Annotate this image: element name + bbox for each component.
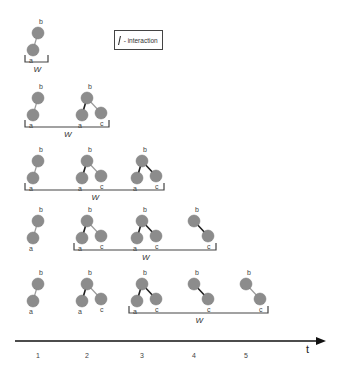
node-b [32, 278, 44, 290]
window-label: W [142, 253, 151, 262]
node-a [76, 232, 88, 244]
axis-tick-label: 2 [85, 352, 89, 359]
node-a [27, 172, 39, 184]
node-label-b: b [88, 269, 92, 276]
node-label-b: b [39, 269, 43, 276]
window-label: W [64, 130, 73, 139]
node-b [81, 92, 93, 104]
node-label-a: a [133, 308, 137, 315]
node-label-c: c [100, 120, 104, 127]
node-c [95, 230, 107, 242]
node-label-b: b [88, 83, 92, 90]
node-label-c: c [207, 306, 211, 313]
node-label-a: a [78, 308, 82, 315]
node-a [76, 295, 88, 307]
axis-tick-label: 3 [140, 352, 144, 359]
node-label-b: b [88, 206, 92, 213]
node-label-c: c [100, 243, 104, 250]
node-label-c: c [155, 183, 159, 190]
node-label-a: a [78, 122, 82, 129]
node-label-c: c [100, 183, 104, 190]
node-b [136, 215, 148, 227]
node-b [32, 27, 44, 39]
node-label-b: b [143, 206, 147, 213]
axis-tick-label: 1 [36, 352, 40, 359]
node-b [32, 215, 44, 227]
node-label-c: c [207, 243, 211, 250]
node-label-a: a [29, 185, 33, 192]
node-b [81, 155, 93, 167]
node-c [95, 170, 107, 182]
node-label-a: a [29, 57, 33, 64]
node-label-c: c [155, 243, 159, 250]
window-label: W [92, 193, 101, 202]
axis-tick-label: 5 [244, 352, 248, 359]
node-c [202, 293, 214, 305]
node-b [188, 278, 200, 290]
node-label-b: b [39, 146, 43, 153]
node-a [27, 232, 39, 244]
window-bracket [74, 243, 216, 250]
node-a [76, 172, 88, 184]
node-a [27, 295, 39, 307]
node-a [131, 232, 143, 244]
node-b [81, 215, 93, 227]
diagram-canvas: abWababcWababcabcWababcabcbcWababcabcbcb… [0, 0, 339, 369]
node-a [131, 295, 143, 307]
node-label-b: b [39, 18, 43, 25]
node-label-b: b [195, 269, 199, 276]
node-label-a: a [78, 245, 82, 252]
node-label-b: b [143, 269, 147, 276]
node-label-c: c [259, 306, 263, 313]
node-b [240, 278, 252, 290]
node-label-b: b [39, 206, 43, 213]
node-label-a: a [133, 185, 137, 192]
node-label-a: a [29, 245, 33, 252]
node-label-c: c [100, 306, 104, 313]
window-bracket [129, 306, 268, 313]
node-label-b: b [88, 146, 92, 153]
node-b [32, 155, 44, 167]
node-c [95, 107, 107, 119]
node-c [202, 230, 214, 242]
node-b [188, 215, 200, 227]
node-label-a: a [29, 308, 33, 315]
node-b [32, 92, 44, 104]
axis-arrow-icon [316, 337, 326, 345]
node-a [131, 172, 143, 184]
node-label-a: a [78, 185, 82, 192]
node-label-b: b [39, 83, 43, 90]
node-c [150, 293, 162, 305]
window-label: W [196, 316, 205, 325]
node-label-b: b [247, 269, 251, 276]
node-c [150, 170, 162, 182]
node-b [81, 278, 93, 290]
node-c [254, 293, 266, 305]
node-c [150, 230, 162, 242]
node-label-c: c [155, 306, 159, 313]
window-bracket [25, 183, 164, 190]
node-label-b: b [195, 206, 199, 213]
node-a [27, 109, 39, 121]
axis-tick-label: 4 [192, 352, 196, 359]
node-a [27, 44, 39, 56]
node-label-a: a [133, 245, 137, 252]
node-b [136, 155, 148, 167]
node-label-b: b [143, 146, 147, 153]
sliding-window-diagram: - interaction abWababcWababcabcWababcabc… [0, 0, 339, 369]
window-label: W [34, 65, 43, 74]
axis-label: t [306, 343, 309, 355]
node-c [95, 293, 107, 305]
window-bracket [25, 120, 109, 127]
node-label-a: a [29, 122, 33, 129]
node-b [136, 278, 148, 290]
node-a [76, 109, 88, 121]
